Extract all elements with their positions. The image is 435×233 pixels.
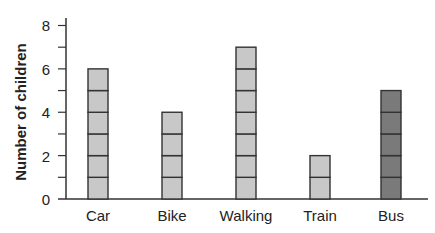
- bar-bike-block-4: [162, 112, 182, 134]
- y-tick-label-6: 6: [38, 61, 50, 78]
- bar-car-block-4: [88, 112, 108, 134]
- bar-car-block-2: [88, 156, 108, 178]
- bar-walking-block-2: [236, 156, 256, 178]
- bar-bike-block-3: [162, 134, 182, 156]
- x-tick-label-walking: Walking: [220, 207, 273, 224]
- bar-car-block-1: [88, 177, 108, 199]
- bar-bus-block-1: [381, 177, 401, 199]
- y-tick-label-8: 8: [38, 17, 50, 34]
- bar-walking-block-6: [236, 69, 256, 91]
- bar-walking-block-7: [236, 47, 256, 69]
- bar-bus-block-5: [381, 91, 401, 113]
- bar-walking-block-1: [236, 177, 256, 199]
- x-tick-label-bus: Bus: [378, 207, 404, 224]
- bar-car-block-6: [88, 69, 108, 91]
- bar-walking-block-4: [236, 112, 256, 134]
- bar-car-block-5: [88, 91, 108, 113]
- y-axis-label: Number of children: [12, 43, 29, 181]
- y-tick-label-4: 4: [38, 104, 50, 121]
- plot-area: [0, 0, 435, 233]
- bar-train-block-2: [310, 156, 330, 178]
- bar-walking-block-5: [236, 91, 256, 113]
- bar-train-block-1: [310, 177, 330, 199]
- bar-bus-block-3: [381, 134, 401, 156]
- bar-walking-block-3: [236, 134, 256, 156]
- x-tick-label-bike: Bike: [157, 207, 186, 224]
- bar-bus-block-2: [381, 156, 401, 178]
- x-tick-label-train: Train: [303, 207, 337, 224]
- bar-bike-block-2: [162, 156, 182, 178]
- bar-bike-block-1: [162, 177, 182, 199]
- bar-bus-block-4: [381, 112, 401, 134]
- y-tick-label-0: 0: [38, 191, 50, 208]
- x-tick-label-car: Car: [86, 207, 110, 224]
- bar-chart: Number of children 0 2 4 6 8 Car Bike Wa…: [0, 0, 435, 233]
- y-tick-label-2: 2: [38, 148, 50, 165]
- bar-car-block-3: [88, 134, 108, 156]
